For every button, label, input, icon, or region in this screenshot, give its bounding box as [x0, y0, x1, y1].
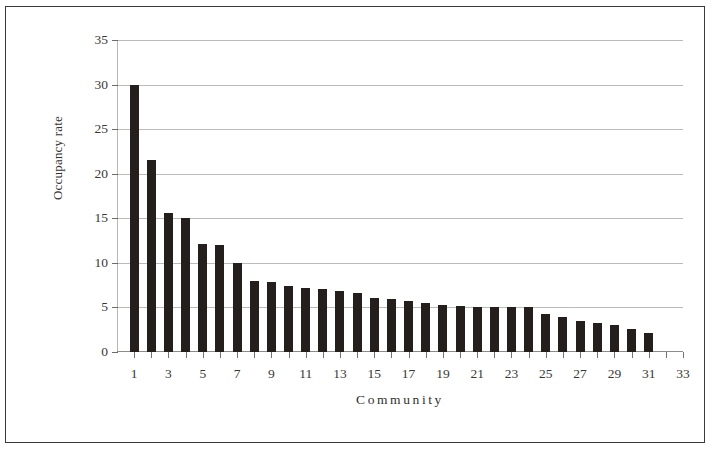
- x-tick-mark: [323, 352, 324, 358]
- x-tick-mark: [546, 352, 547, 358]
- x-tick-mark: [477, 352, 478, 358]
- x-tick-label: 3: [165, 366, 172, 382]
- x-tick-label: 11: [299, 366, 312, 382]
- bar: [490, 307, 499, 352]
- x-tick-mark: [632, 352, 633, 358]
- y-tick-mark: [112, 129, 118, 130]
- x-tick-mark: [340, 352, 341, 358]
- y-tick-label: 5: [101, 299, 108, 315]
- x-tick-mark: [168, 352, 169, 358]
- bar: [456, 306, 465, 352]
- x-tick-label: 13: [333, 366, 347, 382]
- x-tick-label: 21: [470, 366, 484, 382]
- bar: [130, 85, 139, 352]
- gridline: [117, 40, 683, 41]
- y-tick-mark: [112, 85, 118, 86]
- bar: [301, 288, 310, 352]
- bar: [610, 325, 619, 352]
- x-tick-label: 5: [199, 366, 206, 382]
- y-tick-mark: [112, 352, 118, 353]
- bar: [335, 291, 344, 352]
- bar: [370, 298, 379, 352]
- gridline: [117, 174, 683, 175]
- x-tick-mark: [563, 352, 564, 358]
- x-tick-mark: [357, 352, 358, 358]
- x-tick-mark: [580, 352, 581, 358]
- x-tick-mark: [306, 352, 307, 358]
- bar: [593, 323, 602, 352]
- bar: [558, 317, 567, 352]
- plot-area: 05101520253035 1357911131517192123252729…: [117, 40, 683, 352]
- x-tick-mark: [237, 352, 238, 358]
- x-tick-mark: [511, 352, 512, 358]
- x-tick-mark: [529, 352, 530, 358]
- x-tick-mark: [254, 352, 255, 358]
- x-tick-mark: [374, 352, 375, 358]
- bar: [507, 307, 516, 352]
- bar: [404, 301, 413, 352]
- bar: [644, 333, 653, 352]
- y-tick-mark: [112, 40, 118, 41]
- x-tick-label: 33: [676, 366, 690, 382]
- bar: [198, 244, 207, 352]
- x-tick-mark: [494, 352, 495, 358]
- gridline: [117, 85, 683, 86]
- x-tick-mark: [289, 352, 290, 358]
- x-tick-mark: [271, 352, 272, 358]
- x-tick-label: 29: [608, 366, 622, 382]
- y-tick-mark: [112, 174, 118, 175]
- bar: [284, 286, 293, 352]
- x-tick-mark: [220, 352, 221, 358]
- bar: [576, 321, 585, 352]
- bar: [181, 218, 190, 352]
- x-tick-label: 27: [573, 366, 587, 382]
- x-tick-mark: [614, 352, 615, 358]
- bar: [250, 281, 259, 352]
- x-axis-title: Community: [117, 392, 683, 408]
- gridline: [117, 218, 683, 219]
- x-tick-mark: [597, 352, 598, 358]
- x-tick-mark: [203, 352, 204, 358]
- y-tick-label: 35: [95, 32, 109, 48]
- y-tick-label: 30: [95, 77, 109, 93]
- y-tick-label: 10: [95, 255, 109, 271]
- bar: [421, 303, 430, 352]
- bar: [147, 160, 156, 352]
- bar: [438, 305, 447, 352]
- bar: [318, 289, 327, 352]
- x-tick-label: 7: [234, 366, 241, 382]
- y-axis-line: [117, 40, 118, 352]
- x-tick-label: 25: [539, 366, 553, 382]
- y-axis-title: Occupancy rate: [50, 58, 66, 258]
- bar: [627, 329, 636, 352]
- x-tick-label: 31: [642, 366, 656, 382]
- x-tick-label: 1: [131, 366, 138, 382]
- bar: [473, 307, 482, 352]
- y-tick-mark: [112, 307, 118, 308]
- bar-chart: Occupancy rate 05101520253035 1357911131…: [0, 0, 710, 452]
- y-tick-label: 15: [95, 210, 109, 226]
- y-tick-mark: [112, 263, 118, 264]
- bar: [215, 245, 224, 352]
- bar: [524, 307, 533, 352]
- bar: [233, 263, 242, 352]
- x-tick-mark: [426, 352, 427, 358]
- x-tick-mark: [443, 352, 444, 358]
- x-tick-mark: [683, 352, 684, 358]
- x-tick-label: 15: [368, 366, 382, 382]
- x-tick-label: 17: [402, 366, 416, 382]
- x-tick-mark: [649, 352, 650, 358]
- x-tick-mark: [460, 352, 461, 358]
- x-tick-label: 19: [436, 366, 450, 382]
- x-tick-label: 23: [505, 366, 519, 382]
- x-tick-mark: [186, 352, 187, 358]
- x-tick-mark: [391, 352, 392, 358]
- bar: [387, 299, 396, 352]
- bar: [353, 293, 362, 352]
- bar: [267, 282, 276, 352]
- x-tick-label: 9: [268, 366, 275, 382]
- gridline: [117, 129, 683, 130]
- y-tick-label: 0: [101, 344, 108, 360]
- x-tick-mark: [134, 352, 135, 358]
- x-tick-mark: [151, 352, 152, 358]
